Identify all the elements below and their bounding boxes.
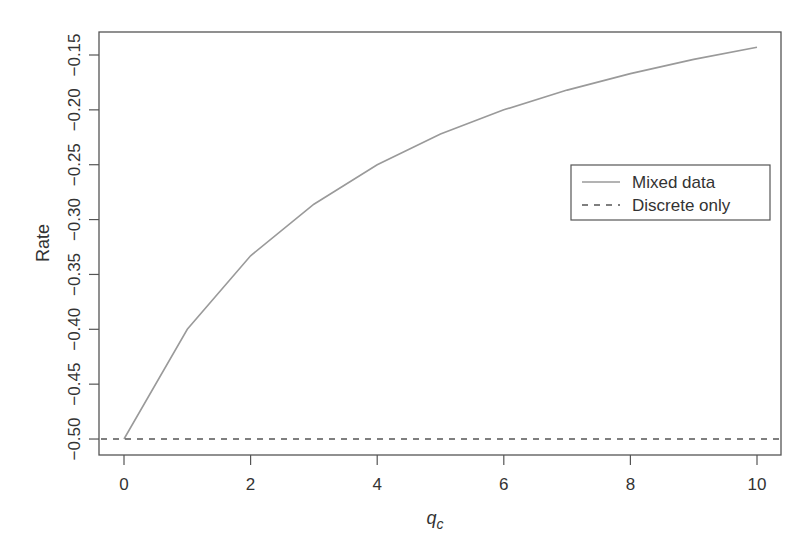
legend-item-discrete: Discrete only — [632, 196, 731, 215]
legend-item-mixed: Mixed data — [632, 173, 716, 192]
legend: Mixed data Discrete only — [571, 165, 770, 220]
x-tick-label: 6 — [499, 475, 508, 494]
y-tick-label: −0.50 — [65, 418, 84, 461]
x-axis-title-main: q — [426, 508, 436, 528]
series-line-mixed-data — [124, 47, 757, 439]
x-tick-label: 2 — [246, 475, 255, 494]
y-tick-label: −0.15 — [65, 33, 84, 76]
y-tick-label: −0.25 — [65, 143, 84, 186]
x-axis: 0246810 — [119, 455, 766, 494]
x-tick-label: 0 — [119, 475, 128, 494]
x-axis-title-sub: c — [437, 516, 444, 532]
y-tick-label: −0.30 — [65, 198, 84, 241]
x-axis-title: qc — [426, 508, 443, 532]
y-tick-label: −0.20 — [65, 88, 84, 131]
y-axis-title: Rate — [33, 224, 53, 262]
x-tick-label: 10 — [748, 475, 767, 494]
y-axis: −0.50−0.45−0.40−0.35−0.30−0.25−0.20−0.15 — [65, 33, 99, 460]
series-layer — [101, 47, 779, 439]
y-tick-label: −0.45 — [65, 363, 84, 406]
y-tick-label: −0.35 — [65, 253, 84, 296]
x-tick-label: 4 — [372, 475, 381, 494]
x-tick-label: 8 — [626, 475, 635, 494]
y-tick-label: −0.40 — [65, 308, 84, 351]
plot-frame — [99, 32, 781, 455]
rate-chart: −0.50−0.45−0.40−0.35−0.30−0.25−0.20−0.15… — [0, 0, 806, 547]
